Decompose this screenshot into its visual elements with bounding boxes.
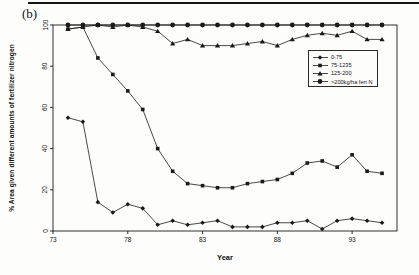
circle-marker-icon — [215, 23, 220, 28]
circle-marker-icon — [335, 23, 340, 28]
circle-marker-icon — [275, 23, 280, 28]
legend-label: 75-1235 — [331, 61, 352, 69]
square-marker-icon — [111, 73, 115, 77]
circle-marker-icon — [318, 79, 323, 84]
circle-marker-icon — [170, 23, 175, 28]
triangle-marker-icon — [320, 31, 325, 35]
square-marker-icon — [380, 172, 384, 176]
diamond-marker-icon — [111, 210, 116, 215]
diamond-marker-icon — [215, 218, 220, 223]
circle-marker-icon — [350, 23, 355, 28]
square-marker-icon — [246, 182, 250, 186]
diamond-marker-icon — [200, 220, 205, 225]
diamond-marker-icon — [290, 220, 295, 225]
diamond-marker-icon — [66, 115, 71, 120]
diamond-marker-icon — [96, 200, 101, 205]
diamond-marker-icon — [318, 55, 323, 60]
square-marker-icon — [141, 108, 145, 112]
square-marker-icon — [126, 89, 130, 93]
circle-marker-icon — [305, 23, 310, 28]
square-marker-icon — [350, 153, 354, 157]
y-tick-label: 0 — [42, 229, 49, 233]
square-marker-icon — [201, 184, 205, 188]
circle-marker-icon — [110, 23, 115, 28]
circle-marker-icon — [320, 23, 325, 28]
triangle-marker-icon — [350, 29, 355, 33]
square-marker-icon — [305, 161, 309, 165]
triangle-marker-icon — [260, 39, 265, 43]
circle-marker-icon — [125, 23, 130, 28]
square-marker-icon — [320, 159, 324, 163]
square-marker-icon — [318, 63, 322, 67]
square-marker-icon — [365, 169, 369, 173]
legend-label: 125-200 — [331, 69, 352, 77]
x-axis-label: Year — [217, 253, 233, 262]
diamond-marker-icon — [335, 218, 340, 223]
diamond-marker-icon — [275, 220, 280, 225]
diamond-marker-icon — [81, 120, 86, 125]
circle-marker-icon — [66, 23, 71, 28]
circle-marker-icon — [81, 23, 86, 28]
legend-item: >200kg/ha fert N — [312, 78, 377, 86]
diamond-marker-icon — [185, 223, 190, 228]
square-marker-icon — [261, 180, 265, 184]
circle-marker-icon — [245, 23, 250, 28]
chart-svg: 0204060801007378838893 — [0, 0, 419, 275]
square-marker-icon — [96, 56, 100, 60]
legend: 0-75 75-1235 125-200 >200kg/ha fert N — [308, 50, 378, 87]
y-tick-label: 100 — [42, 19, 49, 30]
square-marker-icon — [335, 165, 339, 169]
x-tick-label: 73 — [49, 236, 57, 243]
square-marker-icon — [186, 182, 190, 186]
x-tick-label: 78 — [124, 236, 132, 243]
legend-label: >200kg/ha fert N — [331, 78, 373, 86]
circle-marker-icon — [200, 23, 205, 28]
circle-marker-icon — [290, 23, 295, 28]
series-line-2 — [68, 25, 382, 46]
square-marker-icon — [216, 186, 220, 190]
circle-marker-icon — [230, 23, 235, 28]
circle-marker-icon — [155, 23, 160, 28]
y-tick-label: 20 — [42, 186, 49, 194]
diamond-marker-icon — [170, 218, 175, 223]
y-tick-label: 80 — [42, 62, 49, 70]
square-marker-icon — [276, 178, 280, 182]
x-tick-label: 83 — [199, 236, 207, 243]
diamond-marker-icon — [245, 225, 250, 230]
circle-marker-icon — [95, 23, 100, 28]
square-marker-icon — [171, 169, 175, 173]
diamond-marker-icon — [365, 218, 370, 223]
diamond-marker-icon — [305, 218, 310, 223]
series-line-0 — [68, 118, 382, 229]
x-tick-label: 93 — [349, 236, 357, 243]
circle-marker-icon — [380, 23, 385, 28]
x-tick-label: 88 — [274, 236, 282, 243]
y-tick-label: 40 — [42, 145, 49, 153]
circle-marker-icon — [365, 23, 370, 28]
diamond-marker-icon — [125, 202, 130, 207]
circle-marker-icon — [185, 23, 190, 28]
diamond-marker-icon — [230, 225, 235, 230]
circle-marker-icon — [140, 23, 145, 28]
legend-marker-icon — [312, 77, 329, 86]
y-tick-label: 60 — [42, 103, 49, 111]
triangle-marker-icon — [185, 37, 190, 41]
diamond-marker-icon — [350, 216, 355, 221]
circle-marker-icon — [260, 23, 265, 28]
figure-panel-b: (b) % Area given different amounts of fe… — [0, 0, 419, 275]
square-marker-icon — [291, 172, 295, 176]
square-marker-icon — [231, 186, 235, 190]
square-marker-icon — [156, 147, 160, 151]
diamond-marker-icon — [380, 220, 385, 225]
diamond-marker-icon — [260, 225, 265, 230]
legend-label: 0-75 — [331, 53, 342, 61]
